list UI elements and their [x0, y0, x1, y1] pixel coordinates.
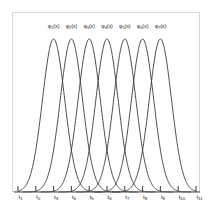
tick-label-subscript: 8	[145, 196, 147, 201]
series-label-argument: (x)	[142, 23, 148, 29]
curve-phi2	[23, 39, 120, 192]
tick-label-subscript: 4	[74, 196, 76, 201]
curve-phi1	[18, 39, 102, 192]
series-label-phi5: φ5(x)	[119, 23, 130, 29]
x-tick-label-t8: t8	[143, 193, 147, 200]
tick-label-subscript: 7	[127, 196, 129, 201]
x-tick-label-t5: t5	[90, 193, 94, 200]
series-label-phi3: φ3(x)	[83, 23, 94, 29]
x-tick-label-t1: t1	[19, 193, 23, 200]
series-label-phi2: φ2(x)	[66, 23, 77, 29]
curve-phi4	[58, 39, 155, 192]
x-tick-label-t10: t10	[179, 193, 185, 200]
tick-label-subscript: 11	[198, 196, 202, 201]
series-label-phi7: φ7(x)	[155, 23, 166, 29]
curve-phi7	[112, 39, 196, 192]
tick-label-subscript: 3	[56, 196, 58, 201]
x-tick-label-t11: t11	[197, 193, 203, 200]
tick-label-subscript: 2	[38, 196, 40, 201]
x-tick-label-t7: t7	[125, 193, 129, 200]
series-label-phi4: φ4(x)	[101, 23, 112, 29]
series-label-argument: (x)	[107, 23, 113, 29]
x-tick-label-t4: t4	[72, 193, 76, 200]
series-label-argument: (x)	[53, 23, 59, 29]
tick-label-subscript: 9	[163, 196, 165, 201]
curves-group	[18, 39, 195, 192]
x-tick-label-t2: t2	[36, 193, 40, 200]
series-label-argument: (x)	[71, 23, 77, 29]
series-label-argument: (x)	[89, 23, 95, 29]
tick-label-subscript: 10	[180, 196, 185, 201]
curve-phi5	[76, 39, 173, 192]
curve-phi3	[41, 39, 138, 192]
x-tick-label-t3: t3	[54, 193, 58, 200]
curve-phi6	[94, 39, 191, 192]
series-label-phi1: φ1(x)	[48, 23, 59, 29]
tick-label-subscript: 5	[91, 196, 93, 201]
series-label-phi6: φ6(x)	[137, 23, 148, 29]
x-axis-group	[14, 186, 200, 192]
chart-canvas	[0, 0, 212, 213]
basis-function-figure: φ1(x)φ2(x)φ3(x)φ4(x)φ5(x)φ6(x)φ7(x) t1t2…	[0, 0, 212, 213]
x-tick-label-t9: t9	[161, 193, 165, 200]
series-label-argument: (x)	[125, 23, 131, 29]
x-tick-label-t6: t6	[108, 193, 112, 200]
series-label-argument: (x)	[160, 23, 166, 29]
